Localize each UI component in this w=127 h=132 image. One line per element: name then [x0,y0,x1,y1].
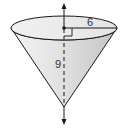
cone-diagram: 6 9 [0,0,127,132]
radius-label: 6 [87,16,93,28]
arrow-down-icon [62,119,67,125]
height-label: 9 [55,58,61,70]
arrow-up-icon [62,3,67,9]
center-point [62,26,66,30]
